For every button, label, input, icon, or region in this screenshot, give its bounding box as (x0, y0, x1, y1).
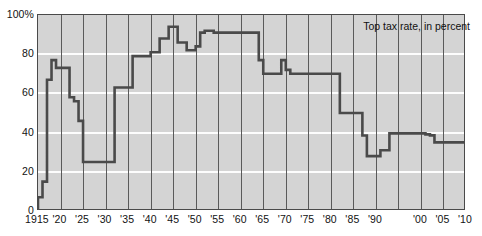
x-axis-tick-label: '30 (98, 214, 112, 225)
x-axis-tick-label: '65 (255, 214, 269, 225)
x-axis-tick-label: '85 (345, 214, 359, 225)
x-axis-tick-label: '70 (278, 214, 292, 225)
x-axis-tick-label: '45 (165, 214, 179, 225)
x-axis-tick-label: '25 (75, 214, 89, 225)
x-axis-tick-label: '80 (323, 214, 337, 225)
x-axis-tick-label: '10 (458, 214, 472, 225)
x-axis-tick-label: '40 (143, 214, 157, 225)
x-axis-tick-label: '75 (300, 214, 314, 225)
chart-annotation-label: Top tax rate, in percent (363, 21, 470, 32)
x-axis: 1915'20'25'30'35'40'45'50'55'60'65'70'75… (0, 0, 482, 236)
x-axis-tick-label: '50 (188, 214, 202, 225)
x-axis-tick-label: '00 (413, 214, 427, 225)
x-axis-tick-label: '55 (210, 214, 224, 225)
x-axis-tick-label: '90 (368, 214, 382, 225)
x-axis-tick-label: '20 (53, 214, 67, 225)
x-axis-tick-label: '60 (233, 214, 247, 225)
x-axis-tick-label: '35 (120, 214, 134, 225)
chart-container: 100%806040200 1915'20'25'30'35'40'45'50'… (0, 0, 482, 236)
x-axis-tick-label: 1915 (25, 214, 49, 225)
x-axis-tick-label: '05 (435, 214, 449, 225)
